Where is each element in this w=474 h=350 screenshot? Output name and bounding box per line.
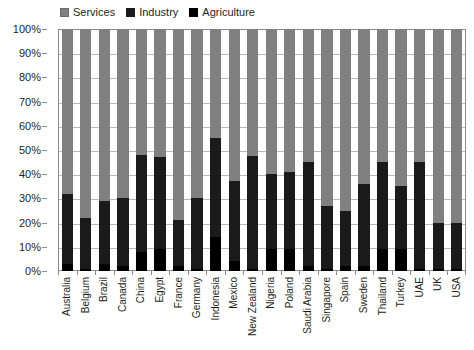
x-tick-label: Singapore [322,277,332,323]
bar-slot [373,29,392,271]
bar-segment-services [303,29,314,162]
x-label-cell: USA [447,277,466,349]
stacked-bar[interactable] [99,29,110,271]
y-tick-mark [42,126,47,127]
bars-container [58,29,466,271]
x-tick-cell [429,271,448,276]
stacked-bar[interactable] [247,29,258,271]
bar-segment-services [247,29,258,156]
bar-slot [262,29,281,271]
stacked-bar[interactable] [284,29,295,271]
bar-segment-services [377,29,388,162]
bar-slot [447,29,466,271]
stacked-bar[interactable] [340,29,351,271]
x-tick-label: Indonesia [211,277,221,320]
legend-swatch-icon-services [60,8,69,17]
x-label-cell: New Zealand [243,277,262,349]
y-tick-mark [42,174,47,175]
x-tick-label: Turkey [396,277,406,307]
y-tick-label: 30% [19,193,41,204]
x-tick-label: UK [433,277,443,291]
legend-label-services: Services [73,7,115,18]
x-tick-cell [373,271,392,276]
x-tick-label: Brazil [99,277,109,302]
stacked-bar[interactable] [210,29,221,271]
bar-segment-industry [117,198,128,266]
bar-segment-services [340,29,351,211]
x-label-cell: Poland [281,277,300,349]
stacked-bar[interactable] [395,29,406,271]
bar-slot [132,29,151,271]
bar-segment-industry [99,201,110,264]
bar-slot [429,29,448,271]
stacked-bar[interactable] [377,29,388,271]
stacked-bar[interactable] [62,29,73,271]
bar-slot [281,29,300,271]
bar-segment-services [80,29,91,218]
x-tick-label: Thailand [378,277,388,315]
bar-slot [206,29,225,271]
stacked-bar[interactable] [136,29,147,271]
bar-segment-services [358,29,369,184]
x-tick-cell [299,271,318,276]
bar-slot [243,29,262,271]
y-tick-mark [42,53,47,54]
legend-label-industry: Industry [139,7,178,18]
bar-slot [318,29,337,271]
bar-segment-industry [80,218,91,269]
y-tick-label: 70% [19,96,41,107]
x-tick-label: China [136,277,146,303]
y-tick-label: 60% [19,120,41,131]
stacked-bar[interactable] [451,29,462,271]
bar-slot [188,29,207,271]
x-tick-cell [95,271,114,276]
bar-slot [114,29,133,271]
bar-segment-agriculture [284,249,295,271]
bar-slot [355,29,374,271]
bar-segment-services [433,29,444,223]
bar-slot [95,29,114,271]
stacked-bar[interactable] [154,29,165,271]
stacked-bar[interactable] [414,29,425,271]
stacked-bar[interactable] [80,29,91,271]
x-label-cell: UK [429,277,448,349]
bar-segment-agriculture [210,237,221,271]
bar-segment-services [62,29,73,194]
legend-swatch-icon-agriculture [189,8,198,17]
bar-slot [225,29,244,271]
stacked-bar[interactable] [229,29,240,271]
bar-segment-industry [210,138,221,237]
x-label-cell: Indonesia [206,277,225,349]
bar-segment-industry [377,162,388,249]
x-tick-cell [392,271,411,276]
stacked-bar[interactable] [266,29,277,271]
stacked-bar[interactable] [191,29,202,271]
x-tick-cell [281,271,300,276]
y-tick-label: 10% [19,241,41,252]
x-label-cell: Australia [58,277,77,349]
x-tick-label: Egypt [155,277,165,303]
bar-segment-agriculture [136,252,147,271]
stacked-bar[interactable] [433,29,444,271]
bar-segment-services [414,29,425,162]
bar-segment-services [191,29,202,198]
stacked-bar[interactable] [173,29,184,271]
bar-segment-industry [154,157,165,249]
y-tick-mark [42,247,47,248]
stacked-bar[interactable] [303,29,314,271]
bar-slot [58,29,77,271]
bar-segment-services [451,29,462,223]
stacked-bar[interactable] [117,29,128,271]
bar-segment-industry [321,206,332,269]
x-label-cell: Canada [114,277,133,349]
stacked-bar[interactable] [358,29,369,271]
x-axis-tickmarks [58,271,466,276]
x-tick-label: Spain [340,277,350,303]
x-tick-cell [114,271,133,276]
bar-segment-industry [173,220,184,266]
stacked-bar[interactable] [321,29,332,271]
x-label-cell: Mexico [225,277,244,349]
bar-segment-industry [284,172,295,249]
x-tick-cell [206,271,225,276]
x-tick-cell [77,271,96,276]
